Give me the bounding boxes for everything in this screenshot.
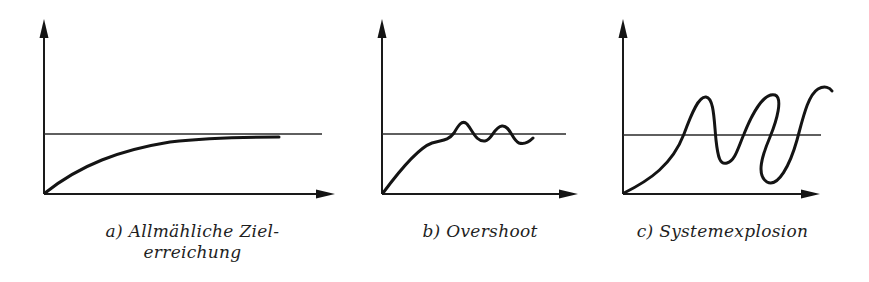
panel-a-curve xyxy=(45,137,279,193)
caption-panel-a: a) Allmähliche Ziel- erreichung xyxy=(60,221,325,263)
panel-b-chart xyxy=(378,19,579,199)
panel-c-x-arrow-icon xyxy=(801,190,820,199)
caption-a-line2: erreichung xyxy=(60,242,325,263)
panel-b-x-arrow-icon xyxy=(559,190,578,199)
panel-a-y-arrow-icon xyxy=(40,19,49,38)
caption-c-line1: c) Systemexplosion xyxy=(610,221,835,242)
caption-panel-c: c) Systemexplosion xyxy=(610,221,835,242)
panel-c-chart xyxy=(619,19,833,199)
caption-a-line1: a) Allmähliche Ziel- xyxy=(60,221,325,242)
panel-c-curve xyxy=(624,87,832,193)
panel-b-curve xyxy=(383,122,533,193)
panel-a-chart xyxy=(40,19,336,199)
caption-b-line1: b) Overshoot xyxy=(395,221,565,242)
panel-c-y-arrow-icon xyxy=(619,19,628,38)
panel-b-y-arrow-icon xyxy=(378,19,387,38)
caption-panel-b: b) Overshoot xyxy=(395,221,565,242)
panel-a-x-arrow-icon xyxy=(316,190,335,199)
